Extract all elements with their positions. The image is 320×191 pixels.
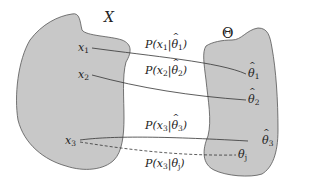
point-theta3-hat: θ3 [262,135,273,148]
point-theta2-hat: θ2 [248,94,259,107]
set-theta-label: Θ [222,26,233,40]
edge-label-1: P(x1|θ1) [145,39,187,52]
edge-label-4: P(x3|θj) [145,158,185,171]
edge-label-3: P(x3|θ3) [145,120,187,133]
point-theta-j: θj [238,149,247,162]
set-x-label: X [104,10,114,24]
point-x3: x3 [65,135,76,148]
edge-label-2: P(x2|θ2) [145,65,187,78]
point-x1: x1 [78,42,89,55]
point-theta1-hat: θ1 [248,68,259,81]
point-x2: x2 [78,69,89,82]
